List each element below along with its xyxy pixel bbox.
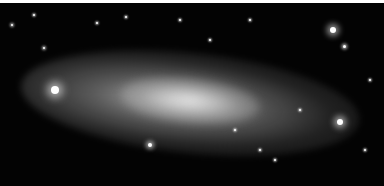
star — [343, 45, 346, 48]
star — [274, 159, 276, 161]
star — [234, 129, 236, 131]
star — [96, 22, 98, 24]
star — [148, 143, 152, 147]
star — [330, 27, 336, 33]
star — [11, 24, 13, 26]
star — [369, 79, 371, 81]
star — [33, 14, 35, 16]
galaxy-photo — [0, 3, 384, 186]
star — [209, 39, 211, 41]
star — [364, 149, 366, 151]
star — [249, 19, 251, 21]
star — [337, 119, 343, 125]
star — [51, 86, 59, 94]
star — [179, 19, 181, 21]
star — [299, 109, 301, 111]
star — [43, 47, 45, 49]
star — [125, 16, 127, 18]
star — [259, 149, 261, 151]
